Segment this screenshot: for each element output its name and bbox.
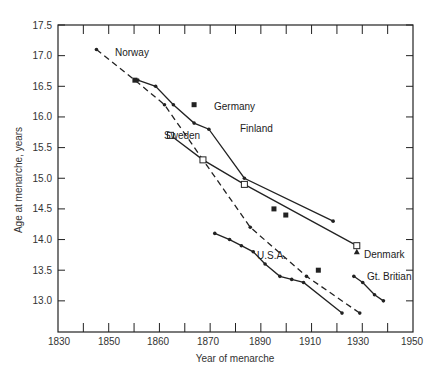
x-tick-label: 1850 <box>98 336 121 347</box>
y-tick-label: 16.0 <box>33 111 53 122</box>
series-group <box>95 48 386 315</box>
series-norway <box>95 48 362 315</box>
y-tick-label: 14.0 <box>33 234 53 245</box>
label-norway: Norway <box>115 47 149 58</box>
series-labels: Norway Germany Finland Sweden U.S.A. Den… <box>115 47 411 282</box>
x-tick-label: 1950 <box>401 336 424 347</box>
chart: 13.013.514.014.515.015.516.016.517.017.5… <box>0 0 442 372</box>
y-tick-label: 17.5 <box>33 20 53 31</box>
label-denmark: Denmark <box>364 249 406 260</box>
series-u-s-a- <box>213 232 344 315</box>
label-britain: Gt. Britian <box>367 271 411 282</box>
x-tick-label: 1870 <box>197 336 220 347</box>
label-finland: Finland <box>240 123 273 134</box>
label-usa: U.S.A. <box>257 250 286 261</box>
x-tick-label: 1860 <box>147 336 170 347</box>
x-tick-label: 1890 <box>249 336 272 347</box>
y-tick-label: 14.5 <box>33 203 53 214</box>
y-axis: 13.013.514.014.515.015.516.016.517.017.5 <box>33 20 413 307</box>
series-denmark <box>354 249 360 255</box>
y-tick-label: 13.0 <box>33 295 53 306</box>
label-germany: Germany <box>214 101 255 112</box>
y-tick-label: 17.0 <box>33 50 53 61</box>
x-tick-label: 1830 <box>48 336 71 347</box>
y-tick-label: 13.5 <box>33 265 53 276</box>
y-axis-label: Age at menarche, years <box>13 127 24 233</box>
y-tick-label: 15.0 <box>33 173 53 184</box>
y-tick-label: 16.5 <box>33 81 53 92</box>
y-tick-label: 15.5 <box>33 142 53 153</box>
x-tick-label: 1930 <box>347 336 370 347</box>
x-axis: 18301850186018701890191019301950 <box>48 25 424 347</box>
label-sweden: Sweden <box>164 130 200 141</box>
x-tick-label: 1910 <box>299 336 322 347</box>
x-axis-label: Year of menarche <box>196 353 275 364</box>
